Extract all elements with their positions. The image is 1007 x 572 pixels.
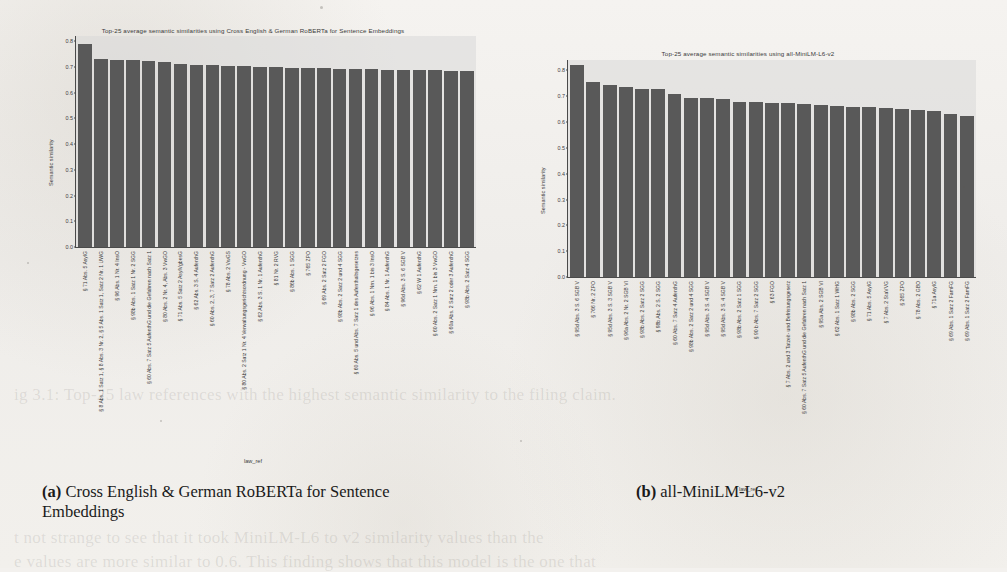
xtick-label: § 60 Abs. 7 Satz 4 AufenthG (668, 279, 682, 479)
xtick-label-text: § 60 Abs. 7 Satz 5 AufenthG und die Gefa… (801, 281, 807, 414)
xtick-label: § 96a Abs. 2 Nr. 2 SGB VI (619, 279, 633, 479)
xtick-label: § 60 Abs. 2 Satz 1 Nrn. 1 bis 3 VwGO (428, 249, 442, 449)
ytick-label: 0.0 (558, 274, 566, 280)
ytick-label: 0.7 (558, 93, 566, 99)
ytick-mark (566, 96, 568, 97)
xtick-label: § 80 Abs. 2 Nr. 4, Abs. 3 VwGO (158, 249, 172, 449)
xtick-label: § 95d Abs. 3 S. 6 SGB V (570, 279, 584, 479)
ytick-label: 0.3 (66, 167, 74, 173)
xtick-label: § 98b Abs. 2 Satz 4 SGG (460, 249, 474, 449)
ytick-mark (74, 41, 76, 42)
ytick-mark (566, 199, 568, 200)
xtick-label: § 62 Abs. 1 Satz 1 WHG (830, 279, 844, 479)
xtick-label-text: § 98b Abs. 2 Satz 4 SGG (464, 251, 470, 308)
xtick-label-text: § 96d Abs. 3 S. 6 SGB V (400, 251, 406, 307)
xtick-label: § 95d Abs. 3 S. 3 SGB V (603, 279, 617, 479)
xtick-label: § 86b Abs. 1 SGG (285, 249, 299, 449)
bar (301, 68, 315, 247)
ytick-mark (74, 144, 76, 145)
xtick-label-text: § 98b Abs. 1 Satz 1 Nr. 2 SGG (130, 251, 136, 320)
chart-a-xtick-labels: § 71 Abs. 5 AsylG§ 8 Abs. 1 Satz 1, § 8 … (76, 249, 476, 449)
xtick-label-text: § 71 Abs. 5 Satz 2 AsylVgbesG (177, 251, 183, 322)
xtick-label: § 63 FGO (765, 279, 779, 479)
bar (944, 114, 958, 277)
bar (911, 110, 925, 277)
bar (126, 60, 140, 247)
xtick-label-text: § 265 ZPO (899, 281, 905, 306)
xtick-label: § 62 W 1 AufenthG (413, 249, 427, 449)
ytick-label: 0.1 (558, 248, 566, 254)
bar (110, 60, 124, 247)
bar (317, 68, 331, 247)
xtick-label-text: § 98b Abs. 2 Satz 2 und 4 SGG (337, 251, 343, 322)
xtick-label: § 60 Abs. 2, 3, 7 Satz 2 AufenthG (206, 249, 220, 449)
chart-panel-a: Top-25 average semantic similarities usi… (14, 6, 492, 476)
xtick-label: § 60a Abs. 2 Satz 2 oder 3 AufenthG (444, 249, 458, 449)
xtick-label: § 765 ZPO (301, 249, 315, 449)
xtick-label: § 60 Abs. 7 Satz 5 AufenthG und die Gefa… (797, 279, 811, 479)
ytick-mark (566, 70, 568, 71)
xtick-label-text: § 95d Abs. 3 S. 3 SGB V (607, 281, 613, 337)
ytick-label: 0.4 (558, 171, 566, 177)
ytick-label: 0.6 (66, 90, 74, 96)
bar (413, 70, 427, 247)
ytick-label: 0.7 (66, 64, 74, 70)
xtick-label-text: § 766 Nr. 2 ZPO (590, 281, 596, 318)
caption-b: (b) all-MiniLM-L6-v2 (636, 482, 966, 502)
xtick-label-text: § 62 Abs. 3 S. 1 Nr. 1 AufenthG (257, 251, 263, 322)
xtick-label-text: § 80 Abs. 2 Nr. 4, Abs. 3 VwGO (162, 251, 168, 322)
xtick-label: § 71 Abs. 5 Satz 2 AsylVgbesG (174, 249, 188, 449)
bar (619, 87, 633, 277)
ytick-label: 0.2 (558, 222, 566, 228)
xtick-label-text: § 90 b Abs. 7 Satz 2 SGG (753, 281, 759, 339)
xtick-label: § 96 Abs. 1 Nrn. 1 bis 3 InsO (365, 249, 379, 449)
bar (221, 66, 235, 247)
xtick-label-text: § 95d Abs. 3 S. 4 SGB V (704, 281, 710, 337)
bar (460, 71, 474, 247)
chart-b-axes: 0.00.10.20.30.40.50.60.70.8 (568, 60, 976, 277)
bar (333, 69, 347, 247)
xtick-label: § 71 Abs. 5 AsylG (862, 279, 876, 479)
ytick-mark (566, 251, 568, 252)
bar (381, 70, 395, 247)
xtick-label: § 78 Abs. 2 GBO (911, 279, 925, 479)
xtick-label-text: § 765 ZPO (305, 251, 311, 276)
ytick-mark (566, 277, 568, 278)
caption-a-text: Cross English & German RoBERTa for Sente… (42, 482, 390, 521)
xtick-label-text: § 78 Abs. 2 GBO (915, 281, 921, 319)
xtick-label-text: § 95d Abs. 3 S. 4 SGB V (720, 281, 726, 337)
xtick-label-text: § 63 FGO (769, 281, 775, 303)
xtick-label-text: § 7 Abs. 2 StaVVG (883, 281, 889, 323)
chart-a-ylabel: Semantic similarity (48, 139, 54, 186)
ytick-mark (566, 225, 568, 226)
ytick-mark (566, 173, 568, 174)
xtick-label: § 98b Abs. 2 SGG (846, 279, 860, 479)
chart-b-bars (568, 60, 976, 277)
xtick-label-text: § 69 Abs. 2 Satz 2 FGO (321, 251, 327, 305)
ytick-label: 0.5 (558, 145, 566, 151)
caption-a: (a) Cross English & German RoBERTa for S… (42, 482, 397, 522)
caption-b-marker: (b) (636, 482, 656, 501)
xtick-label: § 98b Abs. 2 Satz 2 und 4 SGG (684, 279, 698, 479)
xtick-label: § 98b Abs. 2 Satz 1 SGG (733, 279, 747, 479)
bar (444, 71, 458, 247)
bar (586, 82, 600, 277)
bar (862, 107, 876, 277)
bar (158, 62, 172, 247)
bar (700, 98, 714, 277)
bar (603, 85, 617, 277)
xtick-label: § 95d Abs. 3 S. 4 SGB V (700, 279, 714, 479)
xtick-label-text: § 80 Abs. 2 Satz 1 Nr. 4 Verwaltungsgeri… (241, 251, 247, 390)
xtick-label: § 71 Abs. 5 AsylG (78, 249, 92, 449)
bar (781, 103, 795, 277)
bar (668, 94, 682, 277)
bar (879, 108, 893, 277)
xtick-label-text: § 60 Abs. 7 Satz 5 AufenthG und die Gefa… (146, 251, 152, 384)
chart-a-axes: 0.00.10.20.30.40.50.60.70.8 (76, 36, 476, 247)
xtick-label-text: § 7 Abs. 2 und 3 Tatzeit- und Befristung… (785, 281, 791, 387)
xtick-label-text: § 98b Abs. 2 Satz 2 SGG (639, 281, 645, 338)
bar (927, 111, 941, 277)
xtick-label: § 60 Abs. 7 Satz 5 AufenthG und die Gefa… (142, 249, 156, 449)
chart-b-ylabel: Semantic similarity (540, 167, 546, 214)
